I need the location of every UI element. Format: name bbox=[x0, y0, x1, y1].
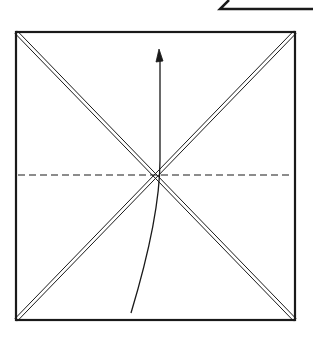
fold-arrow-head bbox=[156, 49, 163, 62]
paper-square bbox=[16, 32, 295, 320]
origami-diagram bbox=[0, 0, 313, 343]
diagonal-crease-tl-br bbox=[15, 31, 296, 321]
fold-arrow-shaft bbox=[131, 58, 160, 313]
diagonal-crease-tr-bl bbox=[15, 31, 296, 321]
previous-step-fragment bbox=[220, 0, 313, 9]
